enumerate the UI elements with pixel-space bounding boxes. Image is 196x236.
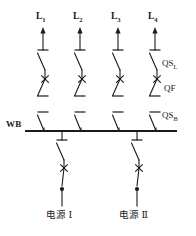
source-qs-blade-2[interactable] xyxy=(132,143,140,160)
feeder-label-l1-sub: 1 xyxy=(42,16,45,23)
source-label-1-base: 电源 xyxy=(46,209,66,220)
device-label-qsb: QSB xyxy=(162,111,178,122)
feeder-branch-l1 xyxy=(38,27,49,131)
source-label-2-numeral: Ⅱ xyxy=(141,210,147,220)
qsl-blade-l1[interactable] xyxy=(38,53,46,70)
qsl-blade-l4[interactable] xyxy=(150,53,158,70)
device-label-qsl-sub: L xyxy=(174,63,178,70)
source-label-1: 电源 Ⅰ xyxy=(46,210,72,221)
device-label-qsl: QSL xyxy=(162,59,178,70)
qf-blade-l2[interactable] xyxy=(75,79,83,96)
feeder-branch-l3 xyxy=(113,27,124,131)
qf-blade-l3[interactable] xyxy=(113,79,121,96)
qsb-blade-l1[interactable] xyxy=(38,115,45,131)
source-qf-blade-2[interactable] xyxy=(137,168,139,186)
feeder-label-l2: L2 xyxy=(73,12,83,23)
qsl-blade-l3[interactable] xyxy=(113,53,121,70)
source-label-2: 电源 Ⅱ xyxy=(119,210,148,221)
device-label-qsl-base: QS xyxy=(162,58,174,68)
source-qs-blade-1[interactable] xyxy=(57,143,65,160)
feeder-branch-l4 xyxy=(150,27,161,131)
busbar-label-wb: WB xyxy=(6,120,21,129)
feeder-label-l2-sub: 2 xyxy=(79,16,82,23)
device-label-qsb-base: QS xyxy=(162,110,174,120)
source-branch-2 xyxy=(132,131,143,206)
single-line-diagram: L1 L2 L3 L4 QSL QF QSB WB 电源 Ⅰ 电源 Ⅱ xyxy=(0,0,196,236)
feeder-label-l3: L3 xyxy=(111,12,121,23)
device-label-qf-base: QF xyxy=(164,83,176,93)
qf-blade-l1[interactable] xyxy=(38,79,46,96)
feeder-label-l3-sub: 3 xyxy=(117,16,120,23)
qsb-blade-l2[interactable] xyxy=(75,115,82,131)
feeder-branch-l2 xyxy=(75,27,86,131)
device-label-qf: QF xyxy=(164,84,176,95)
feeder-label-l4-sub: 4 xyxy=(154,16,157,23)
feeder-label-l1: L1 xyxy=(36,12,46,23)
qsb-blade-l4[interactable] xyxy=(150,115,157,131)
source-qf-blade-1[interactable] xyxy=(62,168,64,186)
qsb-blade-l3[interactable] xyxy=(113,115,120,131)
device-label-qsb-sub: B xyxy=(174,115,178,122)
source-label-2-base: 电源 xyxy=(119,209,139,220)
source-branch-1 xyxy=(57,131,68,206)
qsl-blade-l2[interactable] xyxy=(75,53,83,70)
source-label-1-numeral: Ⅰ xyxy=(68,210,72,220)
qf-blade-l4[interactable] xyxy=(150,79,158,96)
feeder-label-l4: L4 xyxy=(148,12,158,23)
